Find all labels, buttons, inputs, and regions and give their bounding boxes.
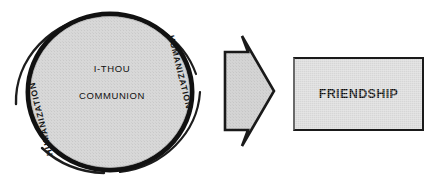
friendship-result-box: FRIENDSHIP bbox=[293, 57, 424, 131]
humanization-circle-group: I-THOU COMMUNION HUMANIZATION HUMANIZATI… bbox=[0, 0, 220, 187]
circle-label-i-thou: I-THOU bbox=[42, 64, 182, 74]
circle-label-communion: COMMUNION bbox=[42, 91, 182, 101]
right-arrow-group bbox=[215, 30, 277, 152]
friendship-label: FRIENDSHIP bbox=[319, 87, 399, 101]
circle-center-text: I-THOU COMMUNION bbox=[42, 64, 182, 101]
right-arrow-icon bbox=[215, 30, 277, 152]
diagram-canvas: I-THOU COMMUNION HUMANIZATION HUMANIZATI… bbox=[0, 0, 444, 187]
